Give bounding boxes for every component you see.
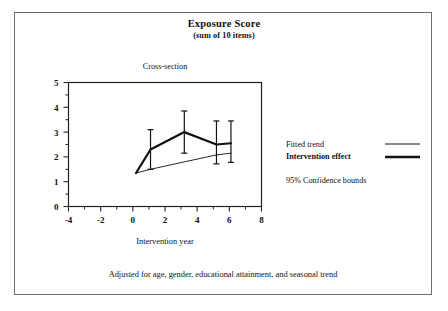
x-tick-label: 2 <box>163 215 168 225</box>
legend-label-fitted-trend: Fitted trend <box>286 140 324 149</box>
x-axis-tick-labels: -4-202468 <box>65 215 265 225</box>
x-axis-label: Intervention year <box>136 237 194 246</box>
x-tick-label: 0 <box>131 215 136 225</box>
y-tick-label: 3 <box>54 128 59 138</box>
y-tick-label: 4 <box>54 103 59 113</box>
x-tick-label: 6 <box>227 215 232 225</box>
chart-plot-area: -4-202468 012345 Intervention year <box>0 0 448 311</box>
figure-footnote: Adjusted for age, gender, educational at… <box>14 270 432 279</box>
figure-page: Exposure Score (sum of 10 items) Cross-s… <box>0 0 448 311</box>
x-tick-label: -2 <box>97 215 105 225</box>
y-axis-tick-labels: 012345 <box>54 78 59 212</box>
x-tick-label: 4 <box>195 215 200 225</box>
x-tick-label: 8 <box>259 215 264 225</box>
legend-swatches <box>385 144 420 157</box>
y-axis-ticks <box>64 83 69 207</box>
plot-frame <box>69 83 262 207</box>
y-tick-label: 5 <box>54 78 59 88</box>
x-axis-ticks <box>69 207 262 212</box>
y-tick-label: 2 <box>54 152 59 162</box>
y-tick-label: 0 <box>54 202 59 212</box>
x-tick-label: -4 <box>65 215 73 225</box>
legend-label-confidence-bounds: 95% Confidence bounds <box>286 176 367 185</box>
y-tick-label: 1 <box>54 177 59 187</box>
legend-label-intervention-effect: Intervention effect <box>286 152 351 161</box>
